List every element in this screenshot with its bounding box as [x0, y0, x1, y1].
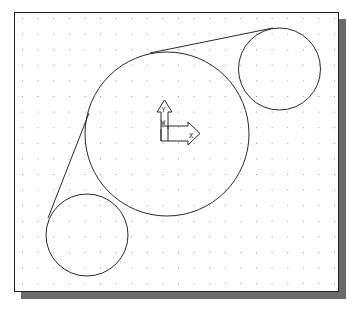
- bottom-left-circle[interactable]: [46, 194, 128, 276]
- grid-dot: [209, 80, 210, 81]
- grid-dot: [272, 221, 273, 222]
- grid-dot: [225, 268, 226, 269]
- left-tangent-line[interactable]: [48, 113, 89, 218]
- grid-dot: [240, 174, 241, 175]
- grid-dot: [162, 221, 163, 222]
- grid-dot: [272, 143, 273, 144]
- grid-dot: [272, 236, 273, 237]
- grid-dot: [69, 18, 70, 19]
- grid-dot: [318, 18, 319, 19]
- grid-dot: [178, 127, 179, 128]
- grid-dot: [84, 268, 85, 269]
- grid-dot: [209, 221, 210, 222]
- grid-dot: [272, 49, 273, 50]
- grid-dot: [84, 49, 85, 50]
- drawing-canvas[interactable]: Y W X: [0, 0, 347, 312]
- grid-dot: [334, 252, 335, 253]
- top-right-circle[interactable]: [239, 28, 321, 110]
- large-circle[interactable]: [85, 52, 249, 216]
- grid-dot: [272, 205, 273, 206]
- grid-dot: [194, 80, 195, 81]
- grid-dot: [53, 49, 54, 50]
- grid-dot: [22, 268, 23, 269]
- grid-dot: [209, 18, 210, 19]
- grid-dot: [334, 96, 335, 97]
- grid-dot: [256, 174, 257, 175]
- grid-dot: [272, 174, 273, 175]
- grid-dot: [303, 127, 304, 128]
- ucs-x-label: X: [189, 132, 194, 140]
- grid-dot: [318, 49, 319, 50]
- grid-dot: [100, 34, 101, 35]
- grid-dot: [209, 96, 210, 97]
- grid-dot: [131, 34, 132, 35]
- grid-dot: [147, 158, 148, 159]
- grid-dot: [287, 49, 288, 50]
- grid-dot: [22, 65, 23, 66]
- grid-dot: [287, 174, 288, 175]
- grid-dot: [287, 158, 288, 159]
- grid-dot: [38, 112, 39, 113]
- grid-dot: [240, 112, 241, 113]
- grid-dot: [22, 190, 23, 191]
- grid-dot: [240, 65, 241, 66]
- grid-dot: [256, 65, 257, 66]
- grid-dot: [178, 221, 179, 222]
- grid-dot: [225, 221, 226, 222]
- grid-dot: [209, 65, 210, 66]
- grid-dot: [84, 18, 85, 19]
- grid-dot: [22, 174, 23, 175]
- grid-dot: [131, 190, 132, 191]
- grid-dot: [116, 143, 117, 144]
- grid-dot: [334, 127, 335, 128]
- grid-dot: [100, 174, 101, 175]
- grid-dot: [22, 96, 23, 97]
- top-tangent-line[interactable]: [150, 28, 273, 53]
- grid-dot: [100, 221, 101, 222]
- grid-dot: [100, 205, 101, 206]
- ucs-x-arrow: [161, 122, 200, 145]
- grid-dot: [303, 96, 304, 97]
- grid-dot: [194, 252, 195, 253]
- grid-dot: [256, 190, 257, 191]
- grid-dot: [194, 236, 195, 237]
- grid-dot: [303, 112, 304, 113]
- grid-dot: [240, 49, 241, 50]
- grid-dot: [100, 252, 101, 253]
- grid-dot: [225, 34, 226, 35]
- grid-dot: [131, 205, 132, 206]
- grid-dot: [69, 158, 70, 159]
- grid-dot: [147, 34, 148, 35]
- grid-dot: [318, 96, 319, 97]
- grid-dot: [334, 34, 335, 35]
- grid-dot: [38, 96, 39, 97]
- grid-dot: [116, 158, 117, 159]
- grid-dot: [84, 80, 85, 81]
- grid-dot: [84, 158, 85, 159]
- grid-dot: [53, 143, 54, 144]
- grid-dot: [272, 158, 273, 159]
- grid-dot: [225, 190, 226, 191]
- grid-dot: [100, 268, 101, 269]
- grid-dot: [209, 158, 210, 159]
- grid-dot: [334, 112, 335, 113]
- grid-dot: [38, 18, 39, 19]
- grid-dot: [178, 174, 179, 175]
- grid-dot: [303, 174, 304, 175]
- grid-dot: [162, 236, 163, 237]
- grid-dot: [287, 112, 288, 113]
- grid-dot: [256, 236, 257, 237]
- grid-dot: [287, 283, 288, 284]
- grid-dot: [131, 65, 132, 66]
- grid-dot: [38, 143, 39, 144]
- grid-dot: [178, 268, 179, 269]
- grid-dot: [194, 205, 195, 206]
- grid-dot: [22, 34, 23, 35]
- grid-dot: [162, 190, 163, 191]
- grid-dot: [38, 190, 39, 191]
- grid-dot: [131, 283, 132, 284]
- grid-dot: [100, 158, 101, 159]
- grid-dot: [178, 283, 179, 284]
- grid-dot: [194, 143, 195, 144]
- grid-dot: [240, 221, 241, 222]
